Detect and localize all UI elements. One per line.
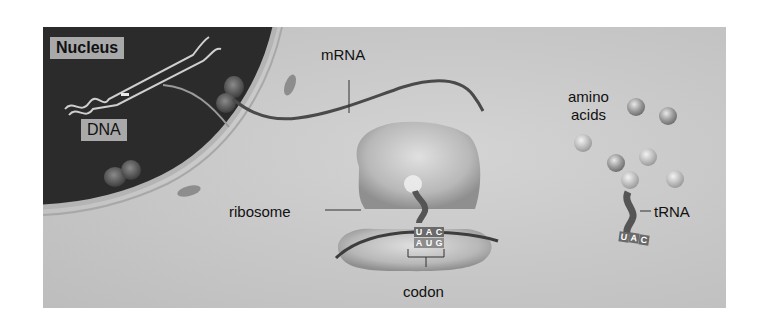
mrna-strand <box>233 81 483 119</box>
illustration-art <box>43 27 726 308</box>
anticodon-base-3: C <box>434 227 444 237</box>
mrna-label: mRNA <box>321 47 365 62</box>
diagram-panel: Nucleus DNA mRNA ribosome amino acids tR… <box>43 27 726 308</box>
amino-acids-label-line2: acids <box>571 107 606 122</box>
dna-label: DNA <box>81 119 127 141</box>
ribosome <box>325 122 498 271</box>
organelle-blob <box>176 183 202 199</box>
trna-anticodon-base-3: C <box>638 234 649 245</box>
anticodon-base-2: A <box>424 227 434 237</box>
nucleus-label: Nucleus <box>50 37 124 59</box>
organelle-blob <box>282 73 299 97</box>
codon-base-1: A <box>414 238 424 248</box>
amino-acids-label-line1: amino <box>568 89 609 104</box>
ribosome-label: ribosome <box>229 204 291 219</box>
codon-base-3: G <box>434 238 444 248</box>
codon-base-2: U <box>424 238 434 248</box>
anticodon-base-1: U <box>414 227 424 237</box>
free-trna <box>627 192 651 235</box>
trna-label: tRNA <box>654 204 690 219</box>
codon-label: codon <box>403 284 444 299</box>
